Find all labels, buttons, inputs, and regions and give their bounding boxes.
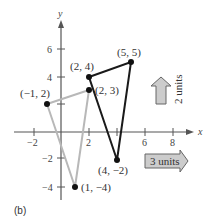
point-label: (4, −2) — [98, 164, 128, 177]
point-marker — [86, 74, 92, 80]
x-axis-label: x — [197, 126, 203, 137]
point-marker — [114, 157, 120, 163]
right-arrow-3-units: 3 units — [145, 150, 188, 172]
x-tick-label: −2 — [27, 137, 38, 148]
y-tick-label: 6 — [47, 44, 52, 55]
figure-caption: (b) — [14, 205, 26, 216]
y-tick-label: 4 — [47, 72, 52, 83]
y-tick-label: −4 — [42, 182, 53, 193]
translated-triangle: (2, 4) (5, 5) (4, −2) — [70, 46, 141, 177]
right-arrow-label: 3 units — [150, 155, 180, 167]
point-marker — [44, 101, 50, 107]
y-axis-arrow-icon — [58, 20, 64, 28]
x-axis-arrow-icon — [186, 129, 194, 135]
diagram-canvas: x −2 2 6 8 y 6 4 −2 −4 (−1, 2) (2, 3) (1… — [0, 0, 216, 218]
point-marker — [128, 59, 134, 65]
x-tick-label: 8 — [170, 137, 175, 148]
x-tick-label: 2 — [86, 137, 91, 148]
up-arrow-icon — [151, 77, 171, 104]
y-tick-label: −2 — [42, 153, 53, 164]
point-label: (5, 5) — [117, 46, 141, 59]
point-label: (2, 3) — [95, 84, 119, 97]
point-label: (−1, 2) — [20, 87, 50, 100]
point-marker — [72, 184, 78, 190]
up-arrow-2-units: 2 units — [151, 74, 184, 104]
x-tick-label: 6 — [142, 137, 147, 148]
point-marker — [86, 87, 92, 93]
point-label: (2, 4) — [70, 60, 94, 73]
up-arrow-label: 2 units — [172, 74, 184, 104]
y-axis-label: y — [57, 8, 63, 19]
point-label: (1, −4) — [81, 181, 111, 194]
